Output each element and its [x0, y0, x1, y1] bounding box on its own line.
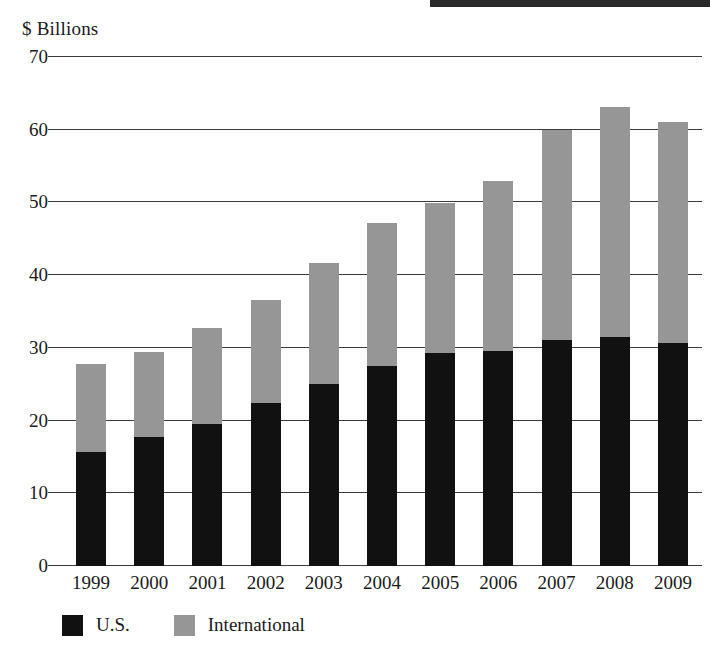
y-tick-mark-70 — [48, 56, 62, 57]
stacked-bar-chart: $ Billions 010203040506070 1999200020012… — [0, 0, 710, 659]
y-tick-label-20: 20 — [29, 411, 48, 430]
y-tick-label-0: 0 — [39, 556, 49, 575]
y-tick-label-30: 30 — [29, 338, 48, 357]
chart-legend: U.S.International — [62, 612, 349, 638]
bar-segment-us-2005 — [425, 353, 455, 566]
bar-group-2005 — [425, 57, 455, 566]
x-axis-tick-labels: 1999200020012002200320042005200620072008… — [62, 572, 702, 598]
bar-segment-us-2007 — [542, 340, 572, 566]
x-tick-label-2005: 2005 — [408, 572, 472, 594]
black-square-swatch — [62, 615, 83, 636]
bar-group-2009 — [658, 57, 688, 566]
plot-area — [62, 57, 702, 566]
y-tick-mark-30 — [48, 347, 62, 348]
bar-group-2000 — [134, 57, 164, 566]
bar-group-2001 — [192, 57, 222, 566]
bar-segment-us-2008 — [600, 337, 630, 566]
x-tick-label-2002: 2002 — [234, 572, 298, 594]
bar-segment-us-2004 — [367, 366, 397, 566]
bar-segment-us-2009 — [658, 343, 688, 566]
bar-group-2004 — [367, 57, 397, 566]
x-tick-label-1999: 1999 — [59, 572, 123, 594]
legend-item-international: International — [174, 614, 305, 636]
y-tick-mark-60 — [48, 129, 62, 130]
x-tick-label-2004: 2004 — [350, 572, 414, 594]
bar-segment-international-2009 — [658, 122, 688, 342]
bar-segment-us-2001 — [192, 424, 222, 566]
bar-segment-us-2000 — [134, 437, 164, 566]
y-tick-mark-0 — [48, 565, 62, 566]
y-tick-label-10: 10 — [29, 483, 48, 502]
y-tick-mark-40 — [48, 274, 62, 275]
y-tick-label-60: 60 — [29, 120, 48, 139]
x-tick-label-2008: 2008 — [583, 572, 647, 594]
bar-segment-international-2004 — [367, 223, 397, 366]
bar-segment-international-2002 — [251, 300, 281, 403]
bar-segment-us-1999 — [76, 452, 106, 566]
bar-segment-us-2002 — [251, 403, 281, 566]
x-tick-label-2001: 2001 — [175, 572, 239, 594]
bar-group-2006 — [483, 57, 513, 566]
bar-segment-international-2000 — [134, 352, 164, 437]
bar-segment-us-2006 — [483, 351, 513, 566]
y-tick-label-50: 50 — [29, 192, 48, 211]
y-tick-mark-20 — [48, 420, 62, 421]
bar-segment-us-2003 — [309, 384, 339, 566]
x-tick-label-2007: 2007 — [525, 572, 589, 594]
legend-label-international: International — [208, 614, 305, 636]
x-tick-label-2009: 2009 — [641, 572, 705, 594]
y-axis-tick-labels: 010203040506070 — [0, 57, 48, 566]
y-tick-label-40: 40 — [29, 265, 48, 284]
bar-segment-international-2005 — [425, 203, 455, 353]
y-tick-mark-50 — [48, 201, 62, 202]
gray-square-swatch — [174, 615, 195, 636]
bar-group-1999 — [76, 57, 106, 566]
bar-group-2003 — [309, 57, 339, 566]
y-axis-unit-label: $ Billions — [22, 18, 98, 40]
bar-segment-international-2006 — [483, 181, 513, 350]
legend-item-us: U.S. — [62, 614, 130, 636]
x-tick-label-2000: 2000 — [117, 572, 181, 594]
bar-group-2007 — [542, 57, 572, 566]
bar-segment-international-1999 — [76, 364, 106, 452]
y-tick-label-70: 70 — [29, 47, 48, 66]
y-tick-mark-10 — [48, 492, 62, 493]
bar-segment-international-2003 — [309, 263, 339, 384]
x-tick-label-2006: 2006 — [466, 572, 530, 594]
bar-segment-international-2008 — [600, 107, 630, 337]
x-tick-label-2003: 2003 — [292, 572, 356, 594]
bar-group-2008 — [600, 57, 630, 566]
legend-label-us: U.S. — [96, 614, 130, 636]
bar-segment-international-2007 — [542, 130, 572, 340]
bar-group-2002 — [251, 57, 281, 566]
bar-segment-international-2001 — [192, 328, 222, 424]
